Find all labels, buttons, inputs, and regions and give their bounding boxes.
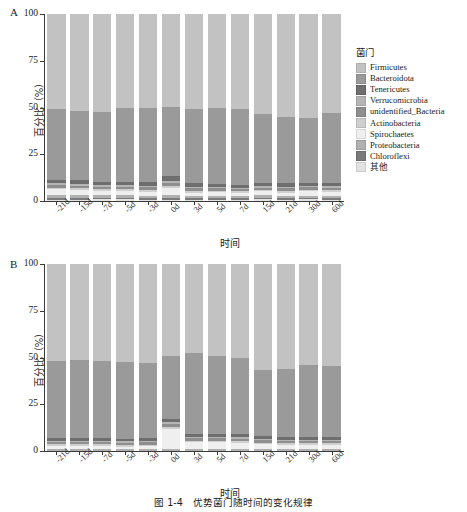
bar-segment	[208, 188, 226, 190]
legend-swatch	[356, 85, 366, 95]
bar[interactable]	[116, 264, 134, 451]
bar-segment	[47, 109, 65, 180]
x-axis-label: 时间	[220, 235, 240, 250]
legend-item[interactable]: Spirochaetes	[356, 129, 444, 140]
legend-item[interactable]: Verrucomicrobia	[356, 95, 444, 106]
x-tick-label: 0d	[169, 452, 181, 464]
bar-segment	[47, 441, 65, 442]
bar-segment	[70, 184, 88, 186]
bar-segment	[254, 186, 272, 187]
bar-segment	[254, 191, 272, 195]
bar-segment	[93, 195, 111, 197]
bar-segment	[231, 14, 249, 109]
bar[interactable]	[70, 264, 88, 451]
legend-label: Verrucomicrobia	[370, 95, 428, 106]
bar[interactable]	[93, 14, 111, 201]
y-tick-label: 0	[33, 446, 38, 456]
legend-item[interactable]: Chloroflexi	[356, 151, 444, 162]
bar-segment	[231, 434, 249, 437]
bar-segment	[277, 14, 295, 117]
bar[interactable]	[185, 14, 203, 201]
bar[interactable]	[70, 14, 88, 201]
bar[interactable]	[162, 14, 180, 201]
bar-segment	[208, 184, 226, 187]
legend-swatch	[356, 74, 366, 84]
legend-swatch	[356, 118, 366, 128]
legend-item[interactable]: unidentified_Bacteria	[356, 106, 444, 117]
x-tick-label: 0d	[169, 202, 181, 214]
panel-a-letter: A	[10, 6, 18, 18]
bar-segment	[185, 188, 203, 190]
bar-segment	[185, 438, 203, 440]
bar[interactable]	[208, 14, 226, 201]
y-tick-label: 25	[29, 150, 39, 160]
bar-segment	[162, 424, 180, 427]
bar-segment	[139, 187, 157, 189]
y-tick	[40, 358, 45, 359]
bar-segment	[93, 182, 111, 185]
bar[interactable]	[254, 14, 272, 201]
bar-segment	[116, 441, 134, 442]
bar[interactable]	[47, 264, 65, 451]
bar-segment	[70, 442, 88, 444]
bar[interactable]	[93, 264, 111, 451]
legend-item[interactable]: Tenericutes	[356, 84, 444, 95]
bar-segment	[70, 186, 88, 189]
bar[interactable]	[231, 264, 249, 451]
bar[interactable]	[322, 264, 340, 451]
bar-segment	[185, 434, 203, 437]
legend-item[interactable]: Actinobacteria	[356, 118, 444, 129]
bar[interactable]	[277, 14, 295, 201]
legend-item[interactable]: Firmicutes	[356, 62, 444, 73]
bar[interactable]	[299, 264, 317, 451]
legend-swatch	[356, 63, 366, 73]
bar-segment	[47, 188, 65, 190]
bar[interactable]	[322, 14, 340, 201]
bar-segment	[162, 14, 180, 107]
bar[interactable]	[139, 264, 157, 451]
bar-segment	[299, 190, 317, 192]
bar[interactable]	[299, 14, 317, 201]
y-tick	[40, 311, 45, 312]
bar[interactable]	[116, 14, 134, 201]
bar-segment	[299, 264, 317, 365]
bar-segment	[139, 108, 157, 182]
bar-segment	[139, 190, 157, 192]
bar-segment	[93, 187, 111, 189]
bar[interactable]	[162, 264, 180, 451]
bar-segment	[185, 437, 203, 438]
bar[interactable]	[139, 14, 157, 201]
bar[interactable]	[254, 264, 272, 451]
bar[interactable]	[277, 264, 295, 451]
bar-segment	[93, 14, 111, 112]
bar-segment	[116, 191, 134, 196]
bar-segment	[93, 191, 111, 196]
bar-segment	[139, 445, 157, 447]
bar-segment	[47, 438, 65, 441]
bar-segment	[93, 112, 111, 182]
bar-segment	[231, 443, 249, 449]
legend-item[interactable]: 其他	[356, 162, 444, 173]
bar-segment	[322, 264, 340, 366]
bar[interactable]	[185, 264, 203, 451]
bar-segment	[299, 441, 317, 443]
bar-segment	[208, 264, 226, 356]
bar-segment	[254, 264, 272, 370]
bar-segment	[322, 441, 340, 443]
legend-item[interactable]: Proteobacteria	[356, 140, 444, 151]
bar[interactable]	[231, 14, 249, 201]
bar-segment	[116, 187, 134, 189]
bar-segment	[116, 362, 134, 439]
legend-label: Bacteroidota	[370, 73, 414, 84]
panel-a-bars	[45, 14, 343, 201]
bar-segment	[231, 191, 249, 193]
x-tick-label: 3d	[192, 202, 204, 214]
bar-segment	[254, 14, 272, 114]
bar-segment	[299, 365, 317, 437]
y-tick-label: 50	[29, 103, 39, 113]
bar-segment	[208, 442, 226, 449]
legend-item[interactable]: Bacteroidota	[356, 73, 444, 84]
bar[interactable]	[208, 264, 226, 451]
bar[interactable]	[47, 14, 65, 201]
panel-b-letter: B	[10, 258, 17, 270]
